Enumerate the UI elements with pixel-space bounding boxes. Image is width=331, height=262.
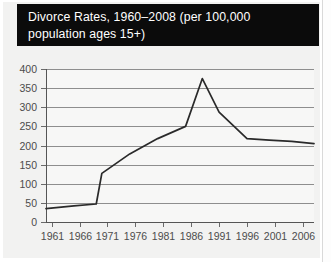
chart-title: Divorce Rates, 1960–2008 (per 100,000 po…: [28, 9, 310, 42]
y-tick-label: 0: [31, 216, 37, 228]
divorce-rates-figure: Divorce Rates, 1960–2008 (per 100,000 po…: [0, 0, 331, 262]
y-tick-label: 100: [19, 178, 37, 190]
x-tick-label: 1971: [96, 230, 120, 242]
plot-area: 050100150200250300350400 196119661971197…: [0, 47, 322, 259]
x-tick-label: 2001: [264, 230, 288, 242]
line-chart-svg: 050100150200250300350400 196119661971197…: [0, 47, 322, 259]
x-tick-label: 1961: [41, 230, 65, 242]
y-tick-label: 250: [19, 120, 37, 132]
x-tick-label: 1986: [180, 230, 204, 242]
page-right-margin: [322, 0, 331, 262]
y-tick-label: 350: [19, 82, 37, 94]
y-tick-label: 400: [19, 63, 37, 75]
y-tick-label: 150: [19, 159, 37, 171]
x-tick-label: 1991: [208, 230, 232, 242]
x-tick-label: 1976: [124, 230, 148, 242]
y-tick-label: 300: [19, 101, 37, 113]
y-tick-label: 50: [25, 197, 37, 209]
x-tick-label: 1981: [152, 230, 176, 242]
x-tick-group: 1961196619711976198119861991199620012006: [41, 222, 316, 242]
plot-background: [46, 69, 314, 222]
x-tick-label: 1996: [236, 230, 260, 242]
chart-title-bar: Divorce Rates, 1960–2008 (per 100,000 po…: [17, 4, 319, 46]
y-tick-label: 200: [19, 140, 37, 152]
y-tick-group: 050100150200250300350400: [19, 63, 46, 228]
x-tick-label: 2006: [292, 230, 316, 242]
x-tick-label: 1966: [69, 230, 93, 242]
